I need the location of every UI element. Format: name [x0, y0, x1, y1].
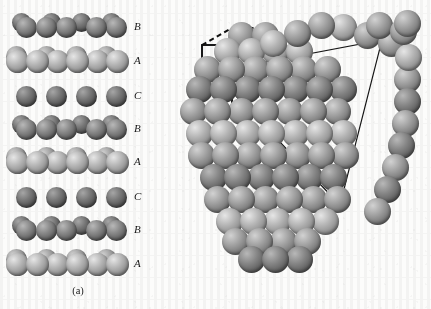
atom-sphere [16, 17, 37, 38]
atom-sphere [284, 20, 311, 47]
panel-a-layer-stacking: B A C B A C B A (a) [0, 0, 175, 309]
figure-close-packed-structures: B A C B A C B A (a) [0, 0, 431, 309]
atom-sphere [86, 220, 107, 241]
atom-sphere [46, 187, 67, 208]
layer-label-6: C [134, 190, 152, 202]
atom-sphere [262, 246, 289, 273]
atom-sphere [286, 246, 313, 273]
layer-label-column: B A C B A C B A [134, 0, 164, 290]
atom-sphere [46, 86, 67, 107]
atom-sphere [16, 187, 37, 208]
atom-sphere [106, 119, 127, 140]
atom-sphere [238, 246, 265, 273]
atom-sphere [66, 151, 89, 174]
panel-b-fcc-cluster: (b) [180, 0, 431, 309]
atom-sphere-isolated [394, 10, 421, 37]
atom-sphere [26, 253, 49, 276]
layer-label-7: B [134, 223, 152, 235]
atom-sphere [56, 17, 77, 38]
layer-label-3: C [134, 89, 152, 101]
atom-sphere [66, 50, 89, 73]
atom-sphere [16, 220, 37, 241]
atom-sphere [36, 119, 57, 140]
caption-panel-a: (a) [58, 285, 98, 296]
atom-sphere [106, 187, 127, 208]
atom-sphere [36, 220, 57, 241]
atom-sphere [366, 12, 393, 39]
layer-label-1: B [134, 20, 152, 32]
atom-sphere [395, 44, 422, 71]
atom-sphere [106, 50, 129, 73]
atom-sphere [260, 30, 287, 57]
atom-sphere [76, 86, 97, 107]
layer-label-2: A [134, 54, 152, 66]
atom-sphere [26, 50, 49, 73]
atom-sphere [56, 119, 77, 140]
atom-sphere [308, 12, 335, 39]
layer-label-5: A [134, 155, 152, 167]
atom-sphere [56, 220, 77, 241]
layer-label-8: A [134, 257, 152, 269]
atom-sphere [26, 151, 49, 174]
atom-sphere [16, 119, 37, 140]
atom-sphere [76, 187, 97, 208]
atom-sphere [86, 17, 107, 38]
atom-sphere [36, 17, 57, 38]
atom-sphere [106, 151, 129, 174]
atom-sphere [106, 220, 127, 241]
atom-sphere [66, 253, 89, 276]
layer-label-4: B [134, 122, 152, 134]
atom-sphere [106, 86, 127, 107]
atom-sphere [86, 119, 107, 140]
atom-sphere [16, 86, 37, 107]
atom-sphere [106, 253, 129, 276]
atom-sphere [364, 198, 391, 225]
atom-sphere [106, 17, 127, 38]
